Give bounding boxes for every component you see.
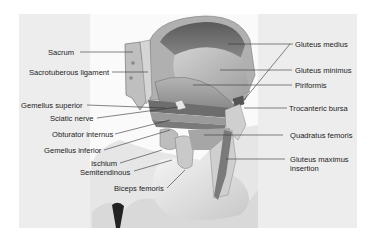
label-semitendinous: Semitendinous xyxy=(80,168,130,177)
label-sciatic-nerve: Sciatic nerve xyxy=(50,114,93,123)
label-biceps-femoris: Biceps femoris xyxy=(114,184,164,193)
label-quadratus-femoris: Quadratus femoris xyxy=(290,131,352,140)
label-ischium: Ischium xyxy=(91,159,117,168)
label-insertion: insertion xyxy=(290,164,319,173)
label-sacrotuberous-ligament: Sacrotuberous ligament xyxy=(29,68,109,77)
label-obturator-internus: Obturator internus xyxy=(52,130,113,139)
label-gluteus-medius: Gluteus medius xyxy=(295,40,348,49)
label-gemellus-superior: Gemellus superior xyxy=(21,101,83,110)
label-sacrum: Sacrum xyxy=(48,48,74,57)
label-gluteus-maximus: Gluteus maximus xyxy=(290,155,349,164)
label-piriformis: Piriformis xyxy=(295,81,327,90)
label-gemellus-inferior: Gemellus inferior xyxy=(44,146,101,155)
label-trochanteric-bursa: Trocanteric bursa xyxy=(289,104,348,113)
label-gluteus-minimus: Gluteus minimus xyxy=(295,66,352,75)
